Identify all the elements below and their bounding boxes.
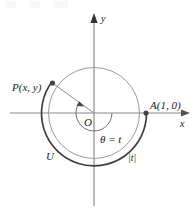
point-marker-P bbox=[50, 80, 55, 85]
y-axis bbox=[90, 13, 97, 206]
point-marker-A bbox=[143, 110, 148, 115]
label-point-a: A(1, 0) bbox=[150, 99, 181, 111]
label-axis-x: x bbox=[180, 118, 184, 129]
angle-arc-arrowhead bbox=[77, 101, 85, 106]
radius-segment-OP bbox=[53, 84, 94, 114]
unit-circle-figure: P(x, y) A(1, 0) O x y θ = t U |t| bbox=[0, 0, 196, 211]
label-point-p: P(x, y) bbox=[12, 81, 41, 93]
label-arc-u: U bbox=[46, 150, 54, 162]
label-arc-length: |t| bbox=[128, 152, 136, 163]
label-angle-theta: θ = t bbox=[100, 133, 121, 145]
label-origin: O bbox=[84, 116, 92, 128]
label-axis-y: y bbox=[101, 13, 105, 24]
